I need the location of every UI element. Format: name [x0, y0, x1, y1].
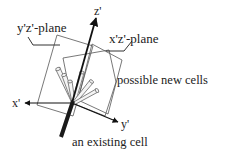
xz-plane-label: x'z'-plane — [109, 31, 159, 46]
x-axis-label: x' — [12, 96, 20, 110]
cell-growth-diagram: y'z'-plane x'z'-plane possible new cells… — [0, 0, 234, 156]
existing-cell — [61, 101, 73, 137]
z-axis-label: z' — [94, 4, 102, 18]
yz-plane-label: y'z'-plane — [17, 20, 67, 35]
existing-cell-label: an existing cell — [72, 135, 148, 149]
new-cells-label: possible new cells — [117, 73, 208, 87]
y-axis — [72, 103, 118, 122]
y-axis-label: y' — [121, 117, 129, 131]
